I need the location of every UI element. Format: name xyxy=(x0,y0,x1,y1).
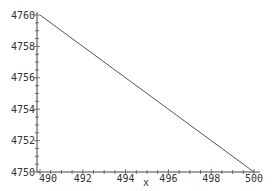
y-tick-label: 4750 xyxy=(11,167,35,178)
x-tick-label: 500 xyxy=(245,173,263,184)
x-tick-label: 492 xyxy=(74,173,92,184)
axes xyxy=(37,12,260,172)
x-tick-label: 498 xyxy=(202,173,220,184)
line-chart: 475047524754475647584760 490492494496498… xyxy=(0,0,277,191)
y-tick-label: 4756 xyxy=(11,72,35,83)
y-tick-label: 4754 xyxy=(11,104,35,115)
y-tick-labels: 475047524754475647584760 xyxy=(11,10,35,178)
data-series xyxy=(40,15,254,172)
tick-marks xyxy=(34,15,254,175)
x-axis-label: x xyxy=(143,177,149,188)
x-tick-label: 496 xyxy=(159,173,177,184)
y-tick-label: 4752 xyxy=(11,135,35,146)
series-line xyxy=(40,15,254,172)
x-tick-label: 494 xyxy=(117,173,135,184)
x-tick-label: 490 xyxy=(39,173,57,184)
x-tick-labels: 490492494496498500 xyxy=(39,173,263,184)
y-tick-label: 4758 xyxy=(11,41,35,52)
y-tick-label: 4760 xyxy=(11,10,35,21)
